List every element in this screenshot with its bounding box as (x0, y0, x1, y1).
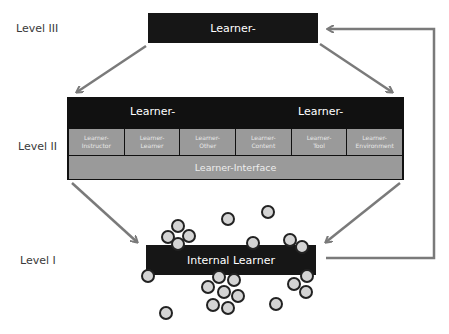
arrows-and-circles (0, 0, 449, 334)
arrow-l2-to-l1-right (326, 183, 400, 242)
feedback-arrow (326, 29, 434, 258)
internal-learner-label-box: Internal Learner (146, 245, 316, 275)
arrow-l3-to-l2-right (320, 44, 392, 92)
arrow-l3-to-l2-left (77, 46, 146, 92)
arrow-l2-to-l1-left (72, 183, 137, 242)
arrow-lines (72, 29, 434, 258)
internal-learner-label: Internal Learner (187, 254, 275, 267)
